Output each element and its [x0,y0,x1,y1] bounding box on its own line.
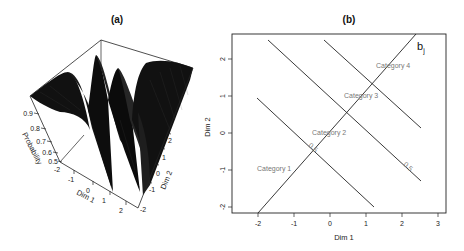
y-axis: 2 1 0 -1 -2 Dim 2 [203,57,232,210]
svg-text:0: 0 [328,220,332,227]
x-axis-label: Dim 1 [75,188,97,205]
svg-text:1: 1 [364,220,368,227]
svg-text:-1: -1 [68,176,74,183]
z-axis-label: Probability [20,131,44,167]
svg-text:0.8: 0.8 [30,125,40,132]
svg-text:0.6: 0.6 [42,149,52,156]
panel-b-title: (b) [343,14,356,25]
svg-text:-2: -2 [219,204,226,210]
category-4-label: Category 4 [376,62,410,70]
bj-vector-line [258,34,416,213]
panel-a: (a) [20,14,193,214]
svg-text:2: 2 [119,207,123,214]
y-axis-label: Dim 2 [203,117,212,137]
svg-text:-1: -1 [291,220,297,227]
svg-text:3: 3 [436,220,440,227]
category-3-label: Category 3 [344,92,378,100]
z-axis: 0.9 0.8 0.7 0.6 0.5 Probability [20,110,62,166]
svg-text:2: 2 [168,137,172,144]
svg-text:0.9: 0.9 [23,110,33,117]
svg-text:0.5: 0.5 [402,161,414,173]
svg-text:0.7: 0.7 [36,138,46,145]
svg-text:-2: -2 [54,166,60,173]
svg-text:2: 2 [400,220,404,227]
svg-text:1: 1 [102,197,106,204]
figure: (a) [0,0,464,251]
svg-text:-2: -2 [255,220,261,227]
svg-text:-2: -2 [140,206,146,213]
svg-text:-1: -1 [149,186,155,193]
y-axis-label: Dim 2 [159,169,175,191]
x-axis-label: Dim 1 [334,233,354,242]
plot-lines [257,34,421,213]
category-1-label: Category 1 [257,165,291,173]
x-axis: -2 -1 0 1 2 3 Dim 1 [255,213,440,242]
svg-text:0: 0 [156,170,160,177]
category-2-label: Category 2 [312,129,346,137]
svg-text:0: 0 [219,131,226,135]
panel-a-title: (a) [111,14,123,25]
svg-text:1: 1 [219,94,226,98]
svg-text:0.5: 0.5 [48,158,58,165]
x-axis: -2 -1 0 1 2 Dim 1 [54,166,126,214]
svg-text:2: 2 [219,57,226,61]
svg-text:0.5: 0.5 [307,142,319,154]
svg-text:1: 1 [162,154,166,161]
boundary-line-1 [257,98,374,207]
bj-label: bj [417,40,425,55]
boundary-line-3 [324,40,421,128]
svg-text:-1: -1 [219,167,226,173]
panel-b: (b) 2 1 0 -1 -2 Dim 2 -2 -1 0 [203,14,446,242]
plot-frame [232,34,446,213]
